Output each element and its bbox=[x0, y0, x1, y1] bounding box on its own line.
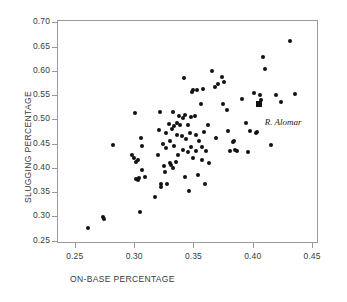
data-point bbox=[137, 176, 141, 180]
y-tick-mark bbox=[52, 47, 57, 48]
data-point bbox=[186, 123, 190, 127]
data-point bbox=[187, 189, 191, 193]
data-point bbox=[244, 121, 248, 125]
data-point bbox=[167, 122, 171, 126]
data-point bbox=[171, 110, 175, 114]
data-point bbox=[163, 170, 167, 174]
x-tick-label: 0.35 bbox=[173, 251, 213, 261]
x-tick-label: 0.40 bbox=[233, 251, 273, 261]
y-tick-mark bbox=[52, 241, 57, 242]
data-point bbox=[258, 93, 262, 97]
y-tick-mark bbox=[52, 95, 57, 96]
y-axis-title: SLUGGING PERCENTAGE bbox=[23, 67, 33, 227]
x-tick-label: 0.45 bbox=[292, 251, 332, 261]
y-tick-mark bbox=[52, 192, 57, 193]
data-point bbox=[288, 39, 292, 43]
data-point bbox=[161, 142, 165, 146]
data-point bbox=[168, 139, 172, 143]
x-tick-mark bbox=[134, 243, 135, 248]
data-point bbox=[207, 161, 211, 165]
data-point bbox=[196, 173, 200, 177]
data-point bbox=[158, 110, 162, 114]
y-tick-mark bbox=[52, 71, 57, 72]
data-point bbox=[269, 143, 273, 147]
data-point bbox=[188, 131, 192, 135]
data-point bbox=[225, 108, 229, 112]
x-tick-mark bbox=[193, 243, 194, 248]
data-point bbox=[214, 136, 218, 140]
x-tick-mark bbox=[75, 243, 76, 248]
x-tick-mark bbox=[253, 243, 254, 248]
data-point bbox=[175, 133, 179, 137]
data-point bbox=[174, 160, 178, 164]
y-tick-label: 0.70 bbox=[4, 16, 50, 26]
data-point bbox=[111, 143, 115, 147]
data-point bbox=[248, 129, 252, 133]
data-point bbox=[199, 102, 203, 106]
highlighted-data-point bbox=[256, 101, 262, 107]
data-point bbox=[226, 129, 230, 133]
x-axis-title: ON-BASE PERCENTAGE bbox=[70, 274, 175, 284]
data-point bbox=[183, 113, 187, 117]
y-tick-mark bbox=[52, 144, 57, 145]
data-point bbox=[156, 153, 160, 157]
data-point bbox=[143, 175, 147, 179]
scatter-chart: 0.250.300.350.400.450.500.550.600.650.70… bbox=[0, 0, 347, 302]
data-point bbox=[202, 130, 206, 134]
data-point bbox=[220, 75, 224, 79]
data-point bbox=[136, 158, 140, 162]
point-annotation-label: R. Alomar bbox=[265, 117, 302, 127]
data-point bbox=[186, 150, 190, 154]
data-point bbox=[162, 164, 166, 168]
data-point bbox=[200, 145, 204, 149]
x-tick-mark bbox=[312, 243, 313, 248]
y-tick-label: 0.25 bbox=[4, 235, 50, 245]
data-point bbox=[183, 175, 187, 179]
data-point bbox=[200, 158, 204, 162]
y-tick-mark bbox=[52, 168, 57, 169]
data-point bbox=[180, 134, 184, 138]
x-tick-label: 0.30 bbox=[114, 251, 154, 261]
data-point bbox=[206, 123, 210, 127]
data-point bbox=[157, 128, 161, 132]
x-tick-label: 0.25 bbox=[55, 251, 95, 261]
data-point bbox=[176, 153, 180, 157]
data-point bbox=[232, 139, 236, 143]
y-tick-label: 0.65 bbox=[4, 41, 50, 51]
y-tick-mark bbox=[52, 216, 57, 217]
y-tick-mark bbox=[52, 119, 57, 120]
y-tick-mark bbox=[52, 22, 57, 23]
